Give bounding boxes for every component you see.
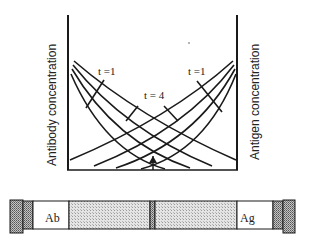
antigen-axis-label: Antigen concentration xyxy=(248,44,262,160)
antibody-axis-label: Antibody concentration xyxy=(45,44,59,166)
right-end-cap-inner xyxy=(273,201,283,229)
ag-well-label: Ag xyxy=(240,211,255,226)
center-divider xyxy=(150,201,155,229)
leader-t4-left xyxy=(126,106,138,121)
label-left-t1: t =1 xyxy=(98,65,116,77)
left-gel xyxy=(69,201,150,229)
antibody-curves xyxy=(71,61,236,169)
left-end-cap-inner xyxy=(23,201,33,229)
ab-well-label: Ab xyxy=(45,211,60,226)
right-end-cap-outer xyxy=(283,200,295,233)
antigen-curve-t2 xyxy=(94,65,234,166)
left-end-cap-outer xyxy=(10,200,23,233)
immunodiffusion-diagram: Antibody concentration Antigen concentra… xyxy=(0,0,310,249)
right-gel xyxy=(155,201,237,229)
label-center-t4: t = 4 xyxy=(144,89,164,101)
antigen-curve-t1 xyxy=(70,61,233,160)
label-right-t1: t =1 xyxy=(188,65,206,77)
